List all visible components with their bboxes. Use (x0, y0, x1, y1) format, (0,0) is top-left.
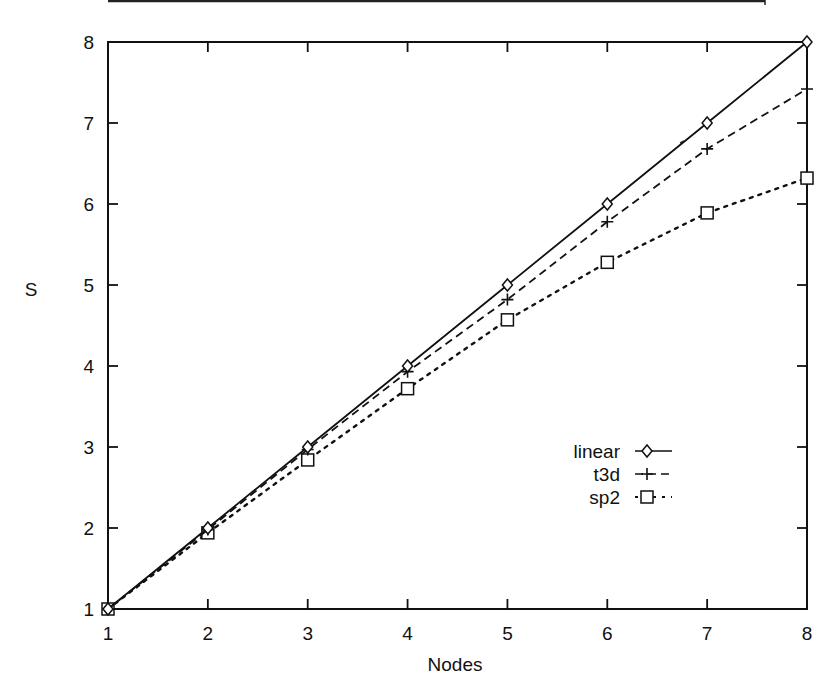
y-tick-label: 8 (83, 32, 94, 53)
y-tick-label: 7 (83, 113, 94, 134)
speedup-chart: 12345678 12345678 Nodes S lineart3dsp2 (0, 0, 837, 692)
legend-label: linear (574, 441, 621, 462)
linear-diamond-marker (403, 360, 413, 372)
chart-canvas: 12345678 12345678 Nodes S lineart3dsp2 (0, 0, 837, 692)
sp2-line (108, 178, 807, 609)
legend-item-linear: linear (574, 441, 672, 462)
x-tick-label: 1 (103, 623, 114, 644)
series-t3d (102, 83, 813, 615)
x-tick-label: 5 (502, 623, 513, 644)
sp2-square-marker (801, 172, 813, 184)
sp2-square-marker (601, 256, 613, 268)
y-tick-label: 5 (83, 275, 94, 296)
t3d-plus-marker (701, 143, 713, 155)
series-layer (102, 36, 813, 615)
y-axis-label: S (25, 279, 38, 300)
linear-diamond-marker (702, 117, 712, 129)
linear-line (108, 42, 807, 609)
x-tick-labels: 12345678 (103, 623, 813, 644)
legend-sp2-square-marker (641, 491, 653, 503)
sp2-square-marker (302, 454, 314, 466)
top-rule (108, 0, 765, 5)
legend-t3d-plus-marker (641, 468, 653, 480)
y-tick-labels: 12345678 (83, 32, 94, 620)
series-sp2 (102, 172, 813, 615)
legend-item-t3d: t3d (594, 464, 672, 485)
linear-diamond-marker (502, 279, 512, 291)
y-tick-label: 4 (83, 356, 94, 377)
y-tick-label: 6 (83, 194, 94, 215)
sp2-square-marker (701, 207, 713, 219)
sp2-square-marker (501, 314, 513, 326)
sp2-square-marker (402, 383, 414, 395)
legend-label: t3d (594, 464, 620, 485)
x-tick-label: 3 (302, 623, 313, 644)
legend: lineart3dsp2 (574, 441, 672, 508)
linear-diamond-marker (802, 36, 812, 48)
y-tick-label: 2 (83, 518, 94, 539)
x-tick-label: 4 (402, 623, 413, 644)
x-tick-label: 7 (702, 623, 713, 644)
legend-item-sp2: sp2 (589, 487, 672, 508)
y-tick-label: 1 (83, 599, 94, 620)
x-tick-label: 8 (802, 623, 813, 644)
x-axis-label: Nodes (428, 654, 483, 675)
y-tick-label: 3 (83, 437, 94, 458)
t3d-plus-marker (801, 83, 813, 95)
x-tick-label: 2 (203, 623, 214, 644)
x-tick-label: 6 (602, 623, 613, 644)
linear-diamond-marker (602, 198, 612, 210)
legend-linear-diamond-marker (642, 445, 652, 457)
series-linear (103, 36, 812, 615)
legend-label: sp2 (589, 487, 620, 508)
